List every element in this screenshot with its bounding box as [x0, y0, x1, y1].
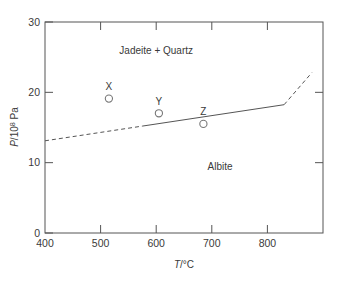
data-point-label-Y: Y	[156, 96, 163, 107]
x-tick-label-800: 800	[259, 237, 277, 249]
y-axis-title: P/108 Pa	[8, 107, 20, 147]
y-tick-label-10: 10	[28, 156, 40, 168]
x-tick-label-600: 600	[147, 237, 165, 249]
data-point-Z	[200, 120, 207, 127]
x-tick-label-500: 500	[92, 237, 110, 249]
svg-text:P/108 Pa: P/108 Pa	[8, 107, 20, 147]
x-tick-label-400: 400	[36, 237, 54, 249]
region-label-albite: Albite	[207, 161, 232, 172]
x-tick-label-700: 700	[203, 237, 221, 249]
phase-boundary-line	[45, 73, 312, 141]
region-label-jadeite-quartz: Jadeite + Quartz	[119, 45, 193, 56]
phase-diagram-chart: 0 10 20 30 400 500 600 700 800 X Y Z Jad…	[0, 0, 339, 281]
chart-canvas: 0 10 20 30 400 500 600 700 800 X Y Z Jad…	[0, 0, 339, 281]
boundary-dashed-right	[284, 73, 312, 105]
boundary-dashed-left	[45, 126, 142, 141]
y-tick-label-20: 20	[28, 86, 40, 98]
svg-text:T/°C: T/°C	[174, 259, 194, 270]
data-point-label-X: X	[106, 81, 113, 92]
data-point-X	[105, 95, 112, 102]
boundary-solid	[142, 105, 284, 126]
data-point-label-Z: Z	[200, 106, 206, 117]
y-tick-label-30: 30	[28, 16, 40, 28]
data-point-Y	[155, 110, 162, 117]
x-axis-title: T/°C	[174, 259, 194, 270]
